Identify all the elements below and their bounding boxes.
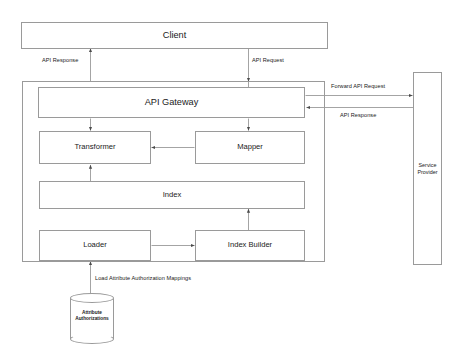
node-index[interactable]: Index [39,181,305,209]
node-service-provider[interactable]: Service Provider [413,72,442,265]
node-mapper-label: Mapper [237,143,263,152]
node-transformer[interactable]: Transformer [39,131,151,164]
node-transformer-label: Transformer [74,143,115,152]
node-api-gateway-label: API Gateway [145,97,199,108]
architecture-diagram: Client API Gateway Transformer Mapper In… [0,0,459,361]
node-attribute-authorizations-datastore[interactable]: Attribute Authorizations [70,293,114,344]
edge-label-api-response-client: API Response [42,57,78,63]
node-attribute-authorizations-label: Attribute Authorizations [70,310,114,322]
node-index-builder[interactable]: Index Builder [195,230,305,261]
node-client[interactable]: Client [21,22,328,49]
node-loader-label: Loader [83,241,107,250]
node-service-provider-label: Service Provider [417,162,437,176]
edge-label-api-response-provider: API Response [340,112,376,118]
edge-label-forward-api-request: Forward API Request [331,83,385,89]
node-index-builder-label: Index Builder [228,241,272,250]
cylinder-top-ellipse [70,293,114,303]
node-mapper[interactable]: Mapper [195,131,305,164]
node-client-label: Client [163,30,187,41]
edge-label-api-request-client: API Request [252,57,284,63]
node-api-gateway[interactable]: API Gateway [38,87,305,118]
node-index-label: Index [163,191,182,200]
edge-label-load-mappings: Load Attribute Authorization Mappings [95,275,191,281]
node-loader[interactable]: Loader [39,230,151,261]
cylinder-bottom-ellipse [70,334,114,344]
